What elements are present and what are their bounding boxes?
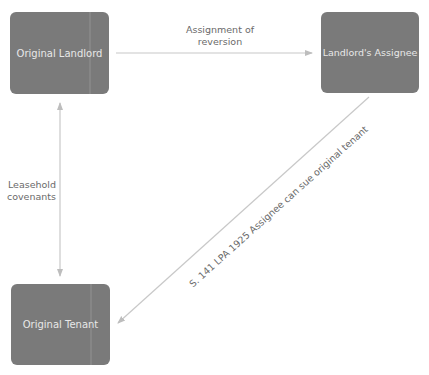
node-original-tenant[interactable]: Original Tenant: [11, 284, 110, 365]
edge-label-line: covenants: [6, 191, 56, 203]
node-landlords-assignee[interactable]: Landlord's Assignee: [321, 12, 419, 93]
node-label: Original Tenant: [23, 319, 99, 330]
edge-label-line: reversion: [170, 36, 270, 48]
edge-label-leasehold: Leasehold covenants: [6, 179, 56, 203]
node-label: Original Landlord: [17, 48, 103, 59]
edge-label-line: Assignment of: [170, 24, 270, 36]
node-label: Landlord's Assignee: [323, 47, 418, 58]
edge-label-line: Leasehold: [6, 179, 56, 191]
edge-label-assignment: Assignment of reversion: [170, 24, 270, 48]
edge-s141-lpa: [118, 97, 369, 323]
node-original-landlord[interactable]: Original Landlord: [10, 12, 109, 94]
